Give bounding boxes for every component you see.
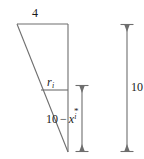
radius-subscript: i bbox=[52, 81, 54, 90]
radius-label: ri bbox=[47, 76, 54, 90]
figure-drawing bbox=[0, 0, 144, 159]
total-height-label: 10 bbox=[131, 81, 143, 93]
segment-script-group: *i bbox=[74, 111, 79, 123]
segment-subscript: i bbox=[74, 113, 76, 121]
triangle-hypotenuse bbox=[17, 24, 68, 152]
segment-length-label: 10−x*i bbox=[23, 111, 79, 125]
top-width-label: 4 bbox=[32, 7, 38, 19]
segment-minus-sign: − bbox=[60, 112, 67, 126]
segment-prefix: 10 bbox=[46, 112, 58, 126]
height-arrow-up bbox=[124, 25, 130, 33]
geometry-figure: 4 ri 10−x*i 10 bbox=[0, 0, 144, 159]
segment-arrow-up bbox=[79, 86, 85, 94]
radius-variable: r bbox=[47, 75, 52, 89]
height-arrow-down bbox=[124, 144, 130, 152]
segment-arrow-down bbox=[79, 144, 85, 152]
